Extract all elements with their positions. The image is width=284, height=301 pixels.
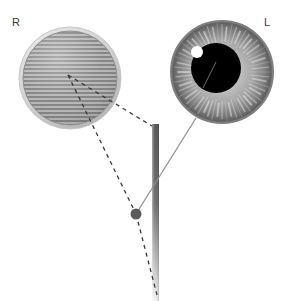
pole-sheen xyxy=(152,124,159,301)
figure-container: R L xyxy=(0,0,284,301)
binocular-fixation-diagram: R L xyxy=(0,0,284,301)
fixation-target-dot xyxy=(131,209,142,220)
left-eye-visual-axis xyxy=(136,118,196,214)
left-eye-group xyxy=(171,21,273,123)
right-eye-label: R xyxy=(12,16,20,28)
vertical-fixation-rod xyxy=(152,124,159,301)
corneal-highlight xyxy=(191,46,203,58)
left-eye-label: L xyxy=(264,16,270,28)
